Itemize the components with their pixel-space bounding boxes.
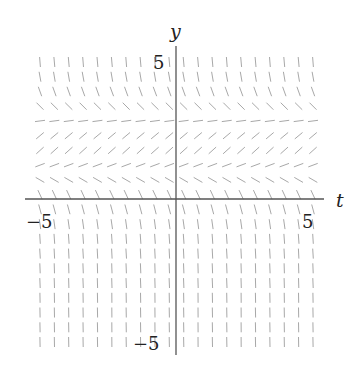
slope-segment [140, 219, 141, 229]
slope-segment [36, 177, 45, 182]
slope-segment [193, 120, 203, 121]
slope-segment [53, 87, 56, 96]
slope-segment [37, 103, 44, 110]
slope-segment [193, 163, 202, 167]
slope-segment [121, 120, 131, 121]
slope-segment [226, 234, 227, 244]
y-tick-5: 5 [153, 52, 164, 73]
slope-segment [165, 177, 174, 182]
slope-segment [196, 87, 200, 96]
slope-segment [108, 103, 115, 110]
slope-segment [182, 190, 186, 199]
slope-segment [150, 120, 160, 121]
slope-segment [211, 205, 214, 215]
slope-segment [54, 57, 55, 67]
slope-segment [195, 103, 202, 110]
slope-segment [226, 205, 229, 215]
slope-segment [255, 249, 256, 259]
slope-segment [311, 190, 315, 199]
slope-segment [309, 147, 316, 154]
slope-segment [298, 219, 299, 229]
slope-segment [268, 87, 271, 96]
slope-segment [198, 57, 199, 67]
slope-segment [69, 249, 70, 259]
slope-segment [140, 72, 142, 82]
slope-segment [297, 205, 300, 215]
slope-segment [266, 147, 273, 154]
slope-segment [82, 205, 85, 215]
slope-segment [153, 190, 157, 199]
slope-segment [39, 72, 41, 82]
slope-segment [64, 177, 73, 182]
slope-segment [126, 219, 127, 229]
slope-segment [35, 120, 45, 121]
slope-segment [254, 205, 257, 215]
slope-segment [179, 163, 188, 167]
slope-segment [222, 120, 232, 121]
slope-segment [251, 177, 260, 182]
slope-segment [79, 147, 86, 154]
slope-segment [111, 57, 112, 67]
slope-segment [297, 87, 300, 96]
slope-segment [140, 249, 141, 259]
slope-segment [309, 133, 317, 139]
slope-segment [164, 120, 174, 121]
slope-segment [223, 133, 231, 139]
slope-segment [212, 249, 213, 259]
slope-segment [169, 249, 170, 259]
slope-segment [122, 177, 131, 182]
slope-segment [36, 133, 44, 139]
slope-segment [79, 133, 87, 139]
slope-segment [237, 163, 246, 167]
slope-segment [313, 249, 314, 259]
slope-segment [194, 177, 203, 182]
y-axis-label: y [169, 20, 181, 42]
slope-segment [81, 87, 84, 96]
slope-segment [80, 103, 87, 110]
slope-segment [151, 147, 159, 154]
slope-segment [83, 57, 84, 67]
slope-segment [197, 205, 200, 215]
slope-segment [310, 103, 317, 110]
slope-segment [154, 219, 155, 229]
slope-segment [294, 120, 304, 121]
slope-segment [284, 234, 285, 244]
slope-segment [295, 147, 302, 154]
slope-segment [270, 57, 271, 67]
slope-segment [238, 103, 245, 110]
slope-segment [182, 87, 185, 96]
slope-segment [284, 57, 285, 67]
slope-segment [241, 234, 242, 244]
slope-segment [53, 205, 56, 215]
slope-segment [112, 249, 113, 259]
slope-segment [281, 147, 289, 154]
slope-segment [38, 190, 42, 199]
slope-segment [136, 120, 146, 121]
slope-segment [168, 87, 171, 96]
slope-segment [51, 147, 58, 154]
slope-segment [298, 249, 299, 259]
slope-segment [198, 249, 199, 259]
slope-segment [281, 103, 288, 110]
slope-segment [252, 103, 259, 110]
slope-segment [107, 120, 117, 121]
slope-segment [212, 72, 214, 82]
slope-segment [111, 205, 114, 215]
slope-segment [122, 163, 131, 167]
slope-segment [266, 177, 275, 182]
slope-segment [50, 163, 59, 167]
slope-segment [225, 87, 228, 96]
slope-segment [239, 190, 243, 199]
slope-segment [255, 234, 256, 244]
slope-segment [226, 57, 227, 67]
slope-segment [223, 147, 230, 154]
slope-segment [126, 249, 127, 259]
slope-segment [183, 249, 184, 259]
slope-segment [108, 147, 116, 154]
slope-segment [311, 87, 314, 96]
slope-segment [183, 72, 185, 82]
slope-segment [252, 147, 259, 154]
slope-segment [79, 177, 88, 182]
slope-segment [211, 87, 214, 96]
slope-segment [270, 249, 271, 259]
